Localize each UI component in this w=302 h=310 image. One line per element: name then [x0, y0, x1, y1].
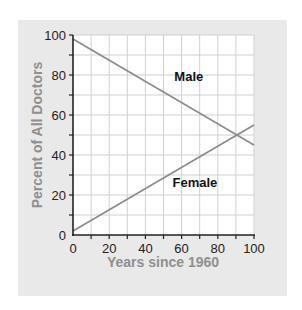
y-tick-labels: 020406080100 — [44, 28, 66, 243]
line-chart: 020406080100 020406080100 Years since 19… — [0, 0, 302, 310]
x-axis-title: Years since 1960 — [107, 254, 219, 270]
y-tick-label: 20 — [52, 188, 66, 203]
y-tick-label: 0 — [59, 228, 66, 243]
y-tick-label: 80 — [52, 68, 66, 83]
x-tick-label: 100 — [243, 241, 265, 256]
series-label-male: Male — [174, 69, 203, 84]
y-axis-title: Percent of All Doctors — [29, 62, 45, 209]
y-tick-label: 100 — [44, 28, 66, 43]
y-tick-label: 40 — [52, 148, 66, 163]
y-tick-label: 60 — [52, 108, 66, 123]
series-label-female: Female — [173, 175, 218, 190]
x-tick-label: 0 — [69, 241, 76, 256]
